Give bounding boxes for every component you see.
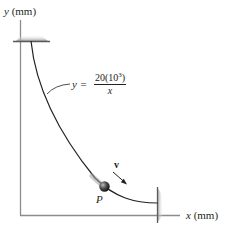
velocity-arrow-icon — [113, 172, 127, 185]
diagram-canvas — [0, 0, 236, 235]
numerator-base: 20(10 — [95, 72, 118, 83]
equation-fraction: 20(103) x — [94, 72, 126, 96]
y-axis-unit: (mm) — [12, 5, 36, 17]
right-support — [158, 187, 164, 223]
particle-label: P — [96, 194, 103, 205]
velocity-label: v — [114, 160, 119, 170]
equation-leader-line — [47, 84, 70, 94]
x-axis-var: x — [186, 209, 191, 221]
y-axis-label: y (mm) — [4, 6, 36, 17]
equation-lhs: y = — [72, 78, 87, 90]
equation-numerator: 20(103) — [94, 72, 126, 85]
y-axis-var: y — [4, 5, 9, 17]
numerator-close: ) — [122, 72, 125, 83]
equation-denominator: x — [108, 85, 112, 96]
top-support — [13, 35, 50, 42]
x-axis-unit: (mm) — [194, 209, 218, 221]
curve-equation: y = — [72, 79, 87, 90]
particle-p-icon — [99, 181, 109, 191]
x-axis-label: x (mm) — [186, 210, 218, 221]
